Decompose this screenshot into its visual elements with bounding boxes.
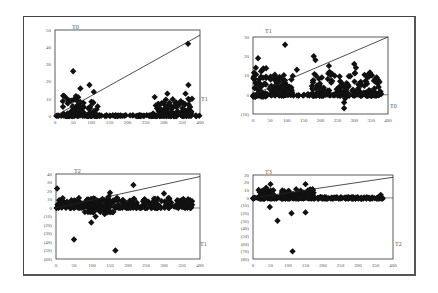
panel-2-data-point (112, 247, 118, 253)
panel-1-data-point (282, 42, 288, 48)
panel-2-data-point (88, 219, 94, 225)
panel-3-y-tick-label: (10) (241, 203, 250, 208)
panel-2-y-tick-label: (20) (44, 223, 53, 228)
panel-3-y-tick-label: 30 (244, 173, 250, 178)
panel-3-x-tick-label: 0 (252, 263, 255, 268)
panel-0-data-point (185, 82, 191, 88)
panel-3-y-tick-label: 0 (247, 196, 250, 201)
panel-0-right-label: T1 (201, 96, 208, 102)
panel-0-x-tick-label: 350 (178, 120, 186, 125)
panel-1-title: T1 (265, 28, 272, 34)
panel-1-x-tick-label: 50 (267, 118, 273, 123)
panel-2-x-tick-label: 200 (124, 263, 132, 268)
panel-2-y-tick-label: 20 (47, 189, 53, 194)
panel-2-y-tick-label: 10 (47, 197, 53, 202)
panel-3-y-tick-label: 10 (244, 188, 250, 193)
panel-2-y-tick-label: (50) (44, 248, 53, 253)
panel-0-y-tick-label: 20 (46, 79, 52, 84)
panel-3-data-point (289, 248, 295, 254)
panel-0-x-tick-label: 400 (196, 120, 204, 125)
panel-1-y-tick-label: 0 (247, 93, 250, 98)
panel-3-x-tick-label: 400 (389, 263, 397, 268)
panel-3-data-point (288, 210, 294, 216)
panel-1-data-point (255, 55, 261, 61)
panel-1-right-label: T0 (390, 103, 397, 109)
panel-2-y-tick-label: 0 (50, 206, 53, 211)
panel-0-y-tick-label: 0 (49, 114, 52, 119)
panel-2-y-tick-label: 40 (47, 172, 53, 177)
panel-3-y-tick-label: (40) (241, 226, 250, 231)
panel-2-x-tick-label: 350 (178, 263, 186, 268)
panel-0-x-tick-label: 100 (88, 120, 96, 125)
panel-0-y-tick-label: 50 (46, 28, 52, 33)
panel-2-right-label: T1 (200, 241, 207, 247)
panel-3-y-tick-label: 20 (244, 180, 250, 185)
panel-3-y-tick-label: (70) (241, 249, 250, 254)
panel-1-x-tick-label: 400 (384, 118, 392, 123)
panel-3-y-tick-label: (50) (241, 234, 250, 239)
panel-2-x-tick-label: 0 (55, 263, 58, 268)
panel-0-data-point (77, 85, 83, 91)
panel-1-x-tick-label: 200 (317, 118, 325, 123)
panel-1-x-tick-label: 150 (300, 118, 308, 123)
panel-3-title: T3 (265, 169, 272, 175)
panel-3-y-tick-label: (30) (241, 219, 250, 224)
panel-3-data-point (267, 204, 273, 210)
panel-1-y-tick-label: 30 (244, 35, 250, 40)
panel-1-y-tick-label: 20 (244, 54, 250, 59)
panel-0-x-tick-label: 0 (54, 120, 57, 125)
panel-0-data-point (164, 90, 170, 96)
panel-1-data-point (341, 105, 347, 111)
panel-3-right-label: T2 (395, 241, 402, 247)
panel-0-x-tick-label: 300 (160, 120, 168, 125)
panel-2-x-tick-label: 400 (196, 263, 204, 268)
panel-3-x-tick-label: 250 (337, 263, 345, 268)
panel-1-x-tick-label: 350 (367, 118, 375, 123)
panel-0-y-tick-label: 30 (46, 62, 52, 67)
panel-1-data-point (294, 67, 300, 73)
panel-2-x-tick-label: 100 (88, 263, 96, 268)
panel-3-x-tick-label: 200 (319, 263, 327, 268)
panel-0-data-point (60, 103, 66, 109)
panel-1-y-tick-label: 10 (244, 73, 250, 78)
panel-2-data-point (54, 185, 60, 191)
panel-3-data-point (274, 218, 280, 224)
panel-3-data-point (302, 181, 308, 187)
panel-2-x-tick-label: 250 (142, 263, 150, 268)
panel-1-x-tick-label: 300 (351, 118, 359, 123)
panel-2-y-tick-label: (60) (44, 257, 53, 262)
panel-1-x-tick-label: 250 (334, 118, 342, 123)
panel-2-y-tick-label: (30) (44, 231, 53, 236)
panel-3-data-point (267, 181, 273, 187)
panel-2-x-tick-label: 150 (106, 263, 114, 268)
panel-1-x-tick-label: 0 (252, 118, 255, 123)
panel-2-data-point (130, 182, 136, 188)
panel-3-x-tick-label: 150 (302, 263, 310, 268)
panel-0-title: T0 (72, 24, 79, 30)
panel-0-data-point (182, 90, 188, 96)
panel-2-x-tick-label: 50 (72, 263, 78, 268)
panel-3-y-tick-label: (80) (241, 257, 250, 262)
panel-3-y-tick-label: (60) (241, 242, 250, 247)
panel-2-plot-area (56, 174, 200, 259)
panel-2-title: T2 (74, 168, 81, 174)
panel-0-x-tick-label: 250 (142, 120, 150, 125)
panel-1-y-tick-label: (10) (241, 112, 250, 117)
panel-0-y-tick-label: 10 (46, 97, 52, 102)
panel-2-y-tick-label: (40) (44, 240, 53, 245)
panel-2-y-tick-label: (10) (44, 214, 53, 219)
panel-3-y-tick-label: (20) (241, 211, 250, 216)
panel-3-x-tick-label: 50 (268, 263, 274, 268)
panel-2-y-tick-label: 30 (47, 180, 53, 185)
panel-0-data-point (86, 82, 92, 88)
panel-3-x-tick-label: 300 (354, 263, 362, 268)
panel-0-y-tick-label: 40 (46, 45, 52, 50)
panel-3-x-tick-label: 100 (284, 263, 292, 268)
panel-2-data-point (161, 190, 167, 196)
panel-0-x-tick-label: 50 (71, 120, 77, 125)
panel-3-data-point (302, 209, 308, 215)
panel-2-x-tick-label: 300 (160, 263, 168, 268)
panel-2-data-point (71, 236, 77, 242)
panel-0-data-point (70, 68, 76, 74)
chart-figure: 01020304050050100150200250300350400T0T1(… (0, 0, 438, 293)
